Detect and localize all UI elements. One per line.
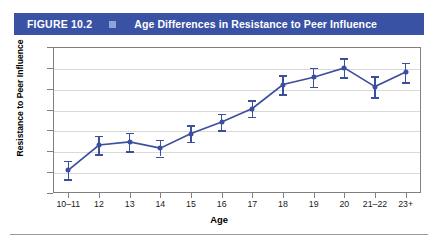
x-tick-label: 10–11 xyxy=(56,199,80,209)
error-bar-cap xyxy=(64,161,72,163)
x-tick-label: 17 xyxy=(247,199,257,209)
data-point-marker xyxy=(127,139,132,144)
x-tick-mark xyxy=(160,193,161,198)
error-bar-cap xyxy=(95,154,103,156)
x-tick-mark xyxy=(314,193,315,198)
figure-number-label: FIGURE 10.2 xyxy=(27,18,92,30)
data-point-marker xyxy=(373,84,378,89)
error-bar-cap xyxy=(248,117,256,119)
data-point-marker xyxy=(342,65,347,70)
chart-area: Resistance to Peer Influence Age 3.403.3… xyxy=(0,36,438,226)
error-bar-cap xyxy=(156,157,164,159)
error-bar-cap xyxy=(248,100,256,102)
x-tick-label: 23+ xyxy=(398,199,413,209)
y-tick-mark xyxy=(47,151,53,152)
x-tick-mark xyxy=(99,193,100,198)
error-bar-cap xyxy=(187,125,195,127)
error-bar-cap xyxy=(64,179,72,181)
x-tick-mark xyxy=(344,193,345,198)
x-tick-mark xyxy=(191,193,192,198)
error-bar-cap xyxy=(279,94,287,96)
data-point-marker xyxy=(281,82,286,87)
error-bar-cap xyxy=(279,75,287,77)
error-bar-cap xyxy=(218,130,226,132)
error-bar-cap xyxy=(187,142,195,144)
x-tick-label: 14 xyxy=(155,199,165,209)
x-tick-mark xyxy=(252,193,253,198)
bottom-divider xyxy=(10,234,428,235)
square-bullet-icon xyxy=(109,21,116,28)
x-tick-label: 21–22 xyxy=(363,199,387,209)
figure-title: Age Differences in Resistance to Peer In… xyxy=(134,18,377,30)
data-point-marker xyxy=(311,75,316,80)
data-point-marker xyxy=(66,168,71,173)
data-point-marker xyxy=(158,146,163,151)
x-tick-mark xyxy=(222,193,223,198)
x-tick-label: 15 xyxy=(186,199,196,209)
y-tick-mark xyxy=(47,172,53,173)
x-axis-title: Age xyxy=(0,214,438,225)
error-bar-cap xyxy=(126,151,134,153)
x-tick-mark xyxy=(68,193,69,198)
y-tick-mark xyxy=(47,47,53,48)
error-bar-cap xyxy=(340,58,348,60)
y-tick-mark xyxy=(47,68,53,69)
x-tick-label: 12 xyxy=(94,199,104,209)
error-bar-cap xyxy=(95,136,103,138)
data-point-marker xyxy=(250,106,255,111)
error-bar-cap xyxy=(310,68,318,70)
error-bar-cap xyxy=(371,97,379,99)
error-bar-cap xyxy=(156,140,164,142)
x-tick-label: 19 xyxy=(309,199,319,209)
x-tick-mark xyxy=(130,193,131,198)
figure-header-bar: FIGURE 10.2 Age Differences in Resistanc… xyxy=(14,13,424,35)
y-tick-mark xyxy=(47,193,53,194)
x-tick-mark xyxy=(406,193,407,198)
y-tick-mark xyxy=(47,89,53,90)
data-point-marker xyxy=(97,143,102,148)
x-tick-mark xyxy=(283,193,284,198)
error-bar-cap xyxy=(402,63,410,65)
error-bar-cap xyxy=(310,87,318,89)
x-tick-mark xyxy=(375,193,376,198)
error-bar-cap xyxy=(402,82,410,84)
data-point-marker xyxy=(219,120,224,125)
data-point-marker xyxy=(189,131,194,136)
x-tick-label: 20 xyxy=(339,199,349,209)
y-tick-mark xyxy=(47,130,53,131)
x-tick-label: 13 xyxy=(125,199,135,209)
error-bar-cap xyxy=(126,133,134,135)
error-bar-cap xyxy=(371,76,379,78)
data-point-marker xyxy=(403,70,408,75)
error-bar-cap xyxy=(218,114,226,116)
x-tick-label: 18 xyxy=(278,199,288,209)
y-tick-mark xyxy=(47,110,53,111)
error-bar-cap xyxy=(340,77,348,79)
figure-container: FIGURE 10.2 Age Differences in Resistanc… xyxy=(0,0,438,249)
x-tick-label: 16 xyxy=(217,199,227,209)
